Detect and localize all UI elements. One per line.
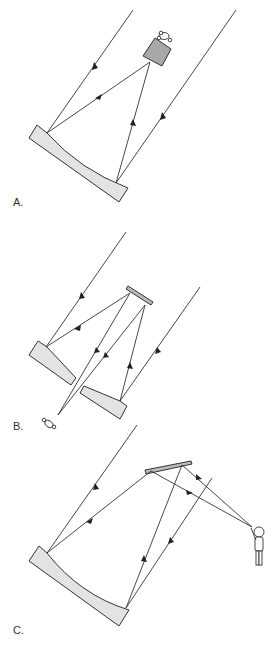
ray-arrow (160, 112, 166, 120)
reflected-ray-right-b (120, 305, 145, 401)
ray-arrow (103, 352, 109, 358)
primary-mirror-left-b (29, 341, 76, 385)
panel-label-a: A. (13, 196, 23, 208)
panel-label-c: C. (13, 624, 24, 636)
primary-mirror-c (29, 546, 129, 626)
primary-mirror-a (29, 125, 128, 202)
incoming-ray-right-b (120, 287, 200, 401)
primary-mirror-right-b (80, 386, 127, 419)
secondary-mirror-b (126, 286, 153, 305)
converging-ray-1-c (151, 471, 252, 527)
eye-icon (157, 31, 172, 42)
telescope-diagram: A. B. (0, 0, 278, 645)
panel-c: C. (13, 425, 264, 636)
eyepiece-box (143, 38, 171, 66)
ray-arrow (94, 347, 100, 353)
ray-arrow (168, 537, 174, 544)
panel-a: A. (13, 10, 236, 208)
panel-label-b: B. (13, 420, 23, 432)
incoming-ray-left-b (46, 232, 126, 347)
ray-arrow (196, 474, 202, 480)
reflected-ray-left-c (47, 471, 151, 553)
eye-icon (42, 418, 56, 429)
ray-arrow (130, 119, 136, 126)
ray-arrow (79, 292, 85, 299)
converging-ray-2-c (182, 465, 252, 527)
ray-arrow (127, 362, 133, 369)
observer-figure (251, 527, 264, 565)
incoming-ray-left-a (47, 10, 133, 133)
ray-arrow (186, 490, 193, 495)
ray-arrow (92, 62, 98, 70)
incoming-ray-right-a (116, 10, 236, 183)
panel-b: B. (13, 232, 200, 432)
incoming-ray-left-c (47, 425, 137, 553)
reflected-ray-left-b (46, 293, 130, 347)
